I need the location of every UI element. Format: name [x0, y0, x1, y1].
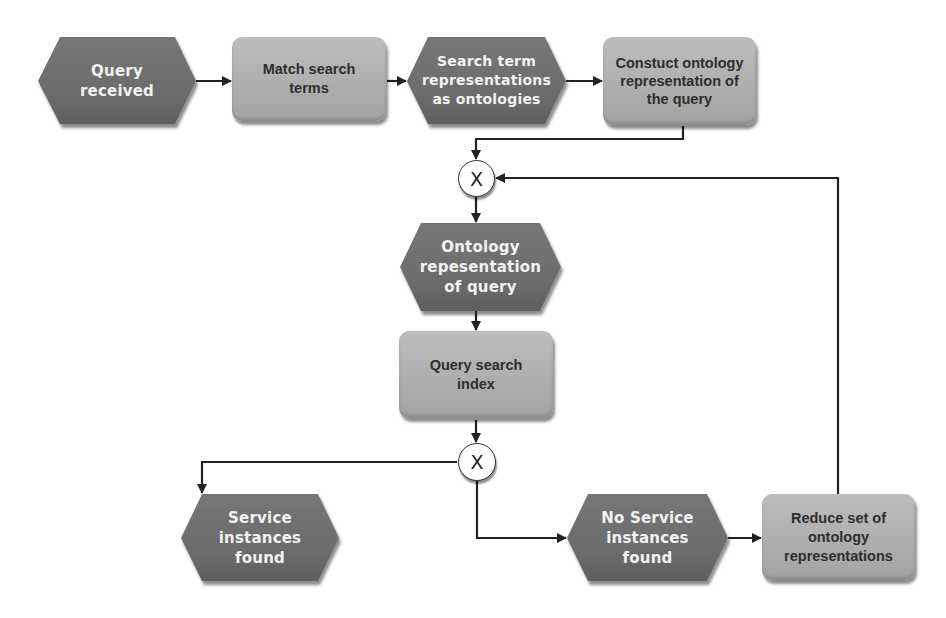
function-construct-ontology: Constuct ontology representation of the … — [603, 37, 756, 125]
edge-xor-to-service-found — [202, 462, 457, 493]
xor-symbol: X — [470, 451, 483, 473]
event-query-received: Query received — [38, 37, 196, 124]
edge-xor-to-no-service — [477, 481, 566, 538]
event-search-term-representations: Search term representations as ontologie… — [407, 37, 566, 124]
event-label: Service instances found — [215, 508, 305, 568]
event-service-found: Service instances found — [181, 494, 339, 581]
function-label: Query search index — [408, 356, 544, 394]
function-label: Constuct ontology representation of the … — [610, 54, 750, 108]
function-label: Match search terms — [241, 60, 377, 98]
xor-merge-connector: X — [458, 160, 495, 197]
event-label: Search term representations as ontologie… — [422, 52, 552, 109]
function-reduce-set: Reduce set of ontology representations — [762, 494, 915, 580]
edge-construct-to-xor — [476, 126, 683, 159]
event-no-service-found: No Service instances found — [567, 494, 728, 581]
event-label: Query received — [55, 61, 179, 101]
process-diagram: Query received Search term representatio… — [0, 0, 946, 618]
function-query-search-index: Query search index — [399, 331, 553, 418]
xor-split-connector: X — [458, 443, 496, 481]
event-label: Ontology repesentation of query — [419, 237, 543, 297]
function-label: Reduce set of ontology representations — [769, 509, 909, 566]
xor-symbol: X — [470, 168, 483, 190]
event-ontology-representation: Ontology repesentation of query — [400, 223, 561, 311]
function-match-search-terms: Match search terms — [232, 37, 386, 121]
event-label: No Service instances found — [598, 508, 698, 568]
